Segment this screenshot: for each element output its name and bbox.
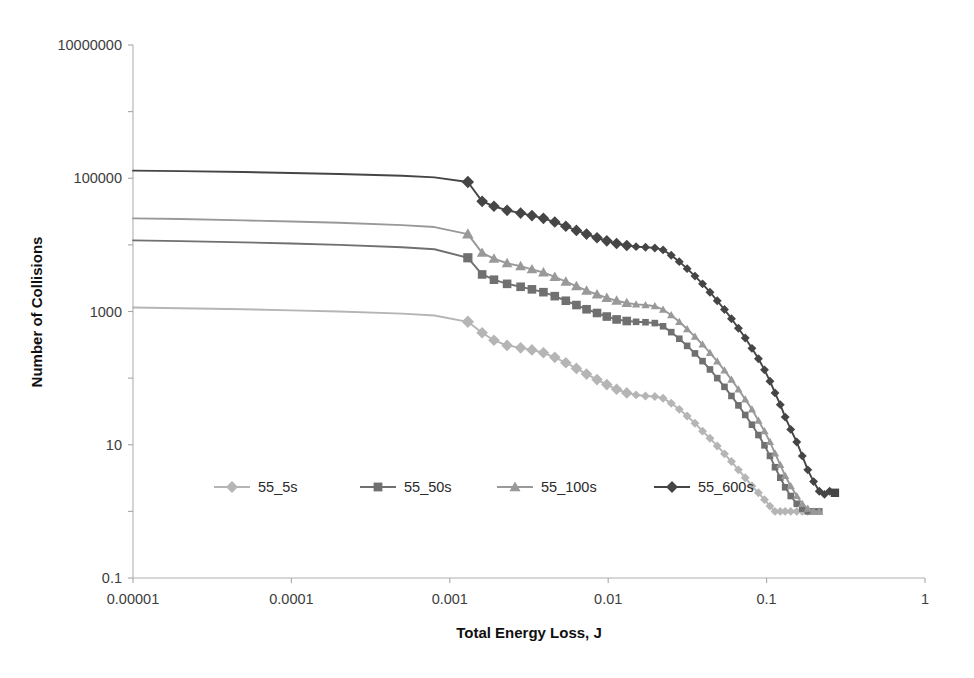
series-marker <box>526 344 538 356</box>
legend-item-55_50s[interactable]: 55_50s <box>360 479 452 495</box>
y-axis-title: Number of Collisions <box>28 237 45 388</box>
series-marker <box>478 270 487 279</box>
series-marker <box>809 477 818 486</box>
series-marker <box>787 493 794 500</box>
series-marker <box>538 347 550 359</box>
series-marker <box>699 358 706 365</box>
series-marker <box>692 350 699 357</box>
series-marker <box>632 390 641 399</box>
series-marker <box>792 438 801 447</box>
series-marker <box>582 305 591 314</box>
x-axis-title: Total Energy Loss, J <box>456 624 602 641</box>
series-marker <box>571 225 583 237</box>
series-marker <box>503 280 512 289</box>
tick-labels-layer: 0.000010.00010.0010.010.110.110100010000… <box>57 37 929 607</box>
series-marker <box>621 240 633 252</box>
log-log-line-chart: 0.000010.00010.0010.010.110.110100010000… <box>0 0 974 678</box>
series-marker <box>488 200 500 212</box>
series-marker <box>642 319 649 326</box>
y-tick-label: 10 <box>106 437 122 453</box>
chart-legend: 55_5s55_50s55_100s55_600s <box>214 479 754 495</box>
tick-marks-layer <box>128 45 925 583</box>
series-marker <box>581 368 593 380</box>
series-marker <box>633 319 640 326</box>
series-line <box>133 218 819 511</box>
series-marker <box>603 312 612 321</box>
series-marker <box>707 366 714 373</box>
series-marker <box>549 216 561 228</box>
x-tick-label: 0.01 <box>594 591 622 607</box>
series-marker <box>560 220 572 232</box>
legend-marker <box>226 481 238 493</box>
series-marker <box>652 320 659 327</box>
x-tick-label: 0.00001 <box>107 591 159 607</box>
series-marker <box>684 343 691 350</box>
series-marker <box>668 329 675 336</box>
series-marker <box>489 253 500 262</box>
series-marker <box>728 393 735 400</box>
series-marker <box>659 394 668 403</box>
series-marker <box>771 388 780 397</box>
series-marker <box>490 275 499 284</box>
x-tick-label: 1 <box>921 591 929 607</box>
series-marker <box>501 205 513 217</box>
series-outlier-marker <box>831 489 839 497</box>
series-marker <box>632 242 641 251</box>
series-marker <box>601 235 613 247</box>
series-marker <box>798 451 807 460</box>
series-marker <box>776 400 785 409</box>
series-marker <box>601 379 613 391</box>
series-marker <box>515 342 527 354</box>
series-marker <box>755 432 762 439</box>
series-marker <box>515 207 527 219</box>
legend-label: 55_50s <box>404 479 452 495</box>
series-marker <box>766 377 775 386</box>
series-marker <box>612 315 621 324</box>
series-marker <box>550 292 559 301</box>
legend-label: 55_100s <box>541 479 597 495</box>
legend-marker <box>666 481 678 493</box>
series-55_100s <box>133 218 823 514</box>
chart-container: 0.000010.00010.0010.010.110.110100010000… <box>0 0 974 678</box>
legend-item-55_5s[interactable]: 55_5s <box>214 479 298 495</box>
y-tick-label: 1000 <box>90 304 122 320</box>
axes-layer <box>133 45 925 578</box>
y-tick-label: 0.1 <box>102 570 122 586</box>
series-marker <box>621 387 633 399</box>
series-marker <box>782 484 789 491</box>
series-marker <box>760 365 769 374</box>
series-marker <box>501 340 513 352</box>
x-tick-label: 0.0001 <box>269 591 313 607</box>
x-tick-label: 0.001 <box>432 591 468 607</box>
series-marker <box>591 374 603 386</box>
y-tick-label: 100000 <box>74 170 122 186</box>
legend-item-55_600s[interactable]: 55_600s <box>654 479 754 495</box>
series-marker <box>650 392 659 401</box>
series-marker <box>572 301 581 310</box>
series-marker <box>803 465 812 474</box>
legend-label: 55_5s <box>258 479 298 495</box>
series-marker <box>735 402 742 409</box>
legend-label: 55_600s <box>698 479 754 495</box>
series-marker <box>581 228 593 240</box>
series-marker <box>591 232 603 244</box>
series-marker <box>749 421 756 428</box>
x-tick-label: 0.1 <box>757 591 777 607</box>
series-layer <box>133 171 839 516</box>
series-marker <box>766 438 774 445</box>
series-marker <box>611 238 623 250</box>
series-marker <box>611 383 623 395</box>
series-marker <box>676 335 683 342</box>
series-marker <box>781 413 790 422</box>
series-marker <box>488 334 500 346</box>
series-55_50s <box>133 240 823 514</box>
legend-item-55_100s[interactable]: 55_100s <box>497 479 597 495</box>
series-marker <box>650 243 659 252</box>
series-marker <box>539 288 548 297</box>
series-marker <box>571 363 583 375</box>
series-marker <box>754 354 763 363</box>
series-marker <box>562 296 571 305</box>
series-marker <box>593 309 602 318</box>
series-marker <box>622 317 631 326</box>
series-marker <box>742 412 749 419</box>
